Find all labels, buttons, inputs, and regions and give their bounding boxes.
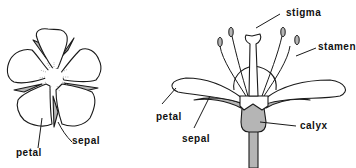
top-view-petal-label: petal [16,148,42,158]
flower-diagram [0,0,356,168]
pistil [245,34,261,96]
side-view-calyx-label: calyx [300,121,328,131]
side-view-flower [162,14,345,168]
side-view-leaders [162,14,316,128]
side-view-stamen-label: stamen [318,42,356,52]
side-view-stigma-label: stigma [286,8,321,18]
top-view-flower [7,29,101,148]
stem [249,128,258,168]
side-view-petal-label: petal [156,112,182,122]
top-view-sepal-label: sepal [72,136,100,146]
side-view-sepal-label: sepal [182,134,210,144]
